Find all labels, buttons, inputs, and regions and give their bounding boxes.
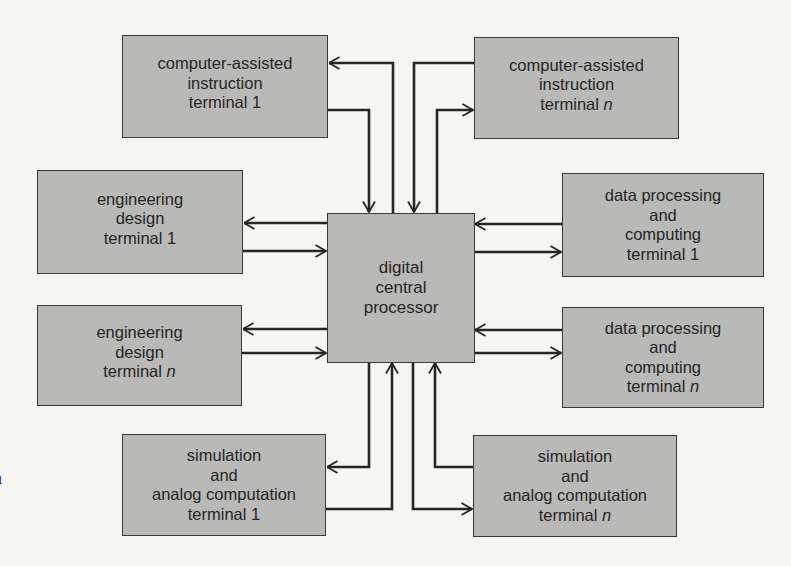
dp-1-label-line-2: and bbox=[649, 206, 677, 226]
ed-1-label-line-1: engineering bbox=[97, 190, 183, 210]
arrow-sim-1-to-processor bbox=[326, 363, 392, 509]
arrow-processor-to-cai-1 bbox=[329, 63, 393, 213]
ed-n-label-line-1: engineering bbox=[96, 323, 182, 343]
arrow-processor-to-sim-1 bbox=[327, 362, 369, 467]
sim-1-label-line-1: simulation bbox=[187, 446, 261, 466]
data-processing-terminal-n-block: data processing and computing terminal n bbox=[562, 307, 764, 408]
dp-1-label-line-1: data processing bbox=[605, 186, 722, 206]
sim-1-label-line-3: analog computation bbox=[152, 485, 296, 505]
dp-n-label-line-3: computing bbox=[625, 358, 701, 378]
engineering-design-terminal-1-block: engineering design terminal 1 bbox=[37, 170, 243, 274]
arrow-cai-1-to-processor bbox=[328, 110, 369, 212]
dp-n-label-line-1: data processing bbox=[605, 319, 722, 339]
sim-n-label-line-1: simulation bbox=[538, 447, 612, 467]
page-margin-fragment: a bbox=[0, 468, 2, 489]
simulation-terminal-n-block: simulation and analog computation termin… bbox=[473, 435, 677, 537]
dp-1-label-line-3: computing bbox=[625, 225, 701, 245]
cai-n-label-line-1: computer-assisted bbox=[509, 56, 644, 76]
cai-1-label-line-2: instruction bbox=[187, 74, 262, 94]
arrow-cai-n-to-processor bbox=[414, 63, 474, 212]
sim-n-label-line-4: terminal n bbox=[539, 506, 611, 526]
processor-label-line-1: digital bbox=[379, 258, 423, 278]
processor-label-line-2: central bbox=[375, 278, 426, 298]
sim-n-label-line-2: and bbox=[561, 467, 589, 487]
cai-1-label-line-3: terminal 1 bbox=[189, 93, 261, 113]
ed-n-label-line-2: design bbox=[115, 343, 164, 363]
simulation-terminal-1-block: simulation and analog computation termin… bbox=[122, 434, 326, 536]
sim-1-label-line-2: and bbox=[210, 466, 238, 486]
ed-1-label-line-2: design bbox=[116, 209, 165, 229]
sim-1-label-line-4: terminal 1 bbox=[188, 505, 260, 525]
engineering-design-terminal-n-block: engineering design terminal n bbox=[37, 305, 242, 406]
processor-label-line-3: processor bbox=[364, 298, 439, 318]
sim-n-label-line-3: analog computation bbox=[503, 486, 647, 506]
cai-1-label-line-1: computer-assisted bbox=[158, 54, 293, 74]
data-processing-terminal-1-block: data processing and computing terminal 1 bbox=[562, 173, 764, 277]
dp-1-label-line-4: terminal 1 bbox=[627, 245, 699, 265]
digital-central-processor-block: digital central processor bbox=[327, 213, 475, 363]
arrow-processor-to-cai-n bbox=[437, 110, 473, 213]
dp-n-label-line-4: terminal n bbox=[627, 377, 699, 397]
arrow-processor-to-sim-n bbox=[413, 362, 472, 509]
cai-n-label-line-3: terminal n bbox=[540, 95, 612, 115]
cai-n-label-line-2: instruction bbox=[539, 75, 614, 95]
ed-n-label-line-3: terminal n bbox=[103, 362, 175, 382]
cai-terminal-1-block: computer-assisted instruction terminal 1 bbox=[122, 35, 328, 138]
ed-1-label-line-3: terminal 1 bbox=[104, 229, 176, 249]
arrow-sim-n-to-processor bbox=[435, 363, 473, 467]
dp-n-label-line-2: and bbox=[649, 338, 677, 358]
cai-terminal-n-block: computer-assisted instruction terminal n bbox=[474, 37, 679, 139]
